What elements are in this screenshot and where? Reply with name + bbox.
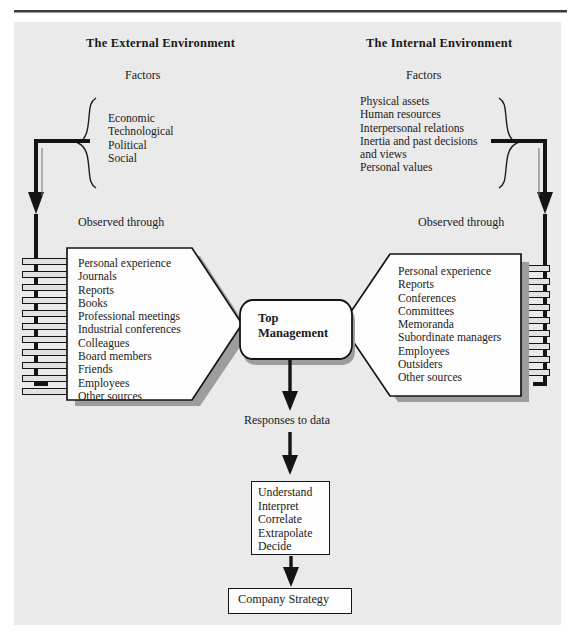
- source-item: Committees: [398, 305, 501, 318]
- source-item: Employees: [398, 345, 501, 358]
- right-factor-item: Personal values: [360, 161, 478, 174]
- right-factors-label: Factors: [406, 68, 441, 83]
- left-column-heading: The External Environment: [86, 36, 235, 51]
- top-horizontal-rule: [14, 10, 567, 12]
- right-column-heading: The Internal Environment: [366, 36, 512, 51]
- center-to-responses-arrow: [279, 358, 301, 412]
- process-step: Decide: [258, 540, 312, 554]
- source-item: Conferences: [398, 292, 501, 305]
- responses-to-process-arrow: [279, 432, 301, 476]
- source-item: Board members: [78, 350, 181, 363]
- source-item: Journals: [78, 270, 181, 283]
- source-item: Reports: [78, 284, 181, 297]
- source-item: Books: [78, 297, 181, 310]
- source-item: Memoranda: [398, 318, 501, 331]
- left-observed-label: Observed through: [78, 215, 164, 230]
- source-item: Other sources: [398, 371, 501, 384]
- source-item: Reports: [398, 278, 501, 291]
- source-item: Colleagues: [78, 337, 181, 350]
- left-factor-item: Political: [108, 139, 174, 152]
- source-item: Outsiders: [398, 358, 501, 371]
- left-factors-label: Factors: [125, 68, 160, 83]
- diagram-canvas: The External Environment Factors The Int…: [0, 0, 581, 635]
- right-factor-item: Physical assets: [360, 95, 478, 108]
- top-management-label: Top Management: [258, 311, 328, 341]
- process-step: Understand: [258, 486, 312, 500]
- left-factor-item: Technological: [108, 125, 174, 138]
- source-item: Employees: [78, 377, 181, 390]
- top-management-line1: Top: [258, 311, 328, 326]
- right-observed-label: Observed through: [418, 215, 504, 230]
- source-item: Subordinate managers: [398, 331, 501, 344]
- right-factors-list: Physical assets Human resources Interper…: [360, 95, 478, 175]
- left-factor-item: Economic: [108, 112, 174, 125]
- source-item: Personal experience: [398, 265, 501, 278]
- right-factor-item: Human resources: [360, 108, 478, 121]
- left-factor-item: Social: [108, 152, 174, 165]
- source-item: Personal experience: [78, 257, 181, 270]
- right-factor-item: Inertia and past decisions: [360, 135, 478, 148]
- top-management-line2: Management: [258, 326, 328, 341]
- responses-to-data-label: Responses to data: [244, 413, 330, 428]
- right-factor-item: Interpersonal relations: [360, 122, 478, 135]
- process-to-outcome-arrow: [280, 556, 302, 588]
- company-strategy-label: Company Strategy: [238, 593, 329, 607]
- process-step: Correlate: [258, 513, 312, 527]
- process-steps-list: Understand Interpret Correlate Extrapola…: [258, 486, 312, 554]
- source-item: Other sources: [78, 390, 181, 403]
- source-item: Professional meetings: [78, 310, 181, 323]
- source-item: Industrial conferences: [78, 323, 181, 336]
- right-factor-item: and views: [360, 148, 478, 161]
- source-item: Friends: [78, 363, 181, 376]
- left-sources-list: Personal experience Journals Reports Boo…: [78, 257, 181, 403]
- left-factors-list: Economic Technological Political Social: [108, 112, 174, 165]
- process-step: Interpret: [258, 500, 312, 514]
- left-sources-box: Personal experience Journals Reports Boo…: [66, 247, 252, 407]
- process-step: Extrapolate: [258, 527, 312, 541]
- right-sources-box: Personal experience Reports Conferences …: [341, 253, 531, 403]
- right-sources-list: Personal experience Reports Conferences …: [398, 265, 501, 385]
